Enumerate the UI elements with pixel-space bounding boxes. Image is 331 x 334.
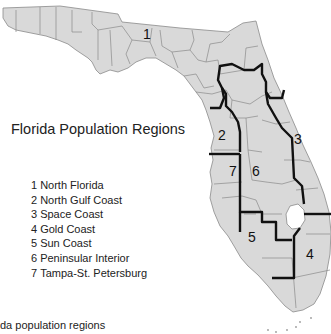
legend-label: North Florida — [40, 179, 104, 191]
map-caption: da population regions — [0, 319, 105, 331]
legend-number: 2 — [31, 194, 37, 206]
region-label-1: 1 — [143, 26, 151, 42]
legend-number: 7 — [31, 267, 37, 279]
region-label-4: 4 — [306, 246, 314, 262]
legend-number: 5 — [31, 237, 37, 249]
legend-item: 6Peninsular Interior — [31, 251, 147, 266]
legend-item: 7Tampa-St. Petersburg — [31, 266, 147, 281]
legend-label: Gold Coast — [40, 223, 95, 235]
legend-item: 3Space Coast — [31, 207, 147, 222]
legend-item: 1North Florida — [31, 178, 147, 193]
legend-label: North Gulf Coast — [40, 194, 122, 206]
region-label-7: 7 — [229, 163, 237, 179]
region-label-2: 2 — [218, 127, 226, 143]
legend-label: Sun Coast — [40, 237, 91, 249]
florida-map — [0, 0, 331, 334]
florida-keys — [267, 317, 312, 333]
legend-item: 4Gold Coast — [31, 222, 147, 237]
region-label-5: 5 — [248, 229, 256, 245]
map-legend: 1North Florida 2North Gulf Coast 3Space … — [31, 178, 147, 280]
region-label-6: 6 — [252, 163, 260, 179]
legend-label: Peninsular Interior — [40, 252, 129, 264]
legend-label: Space Coast — [40, 208, 103, 220]
legend-number: 1 — [31, 179, 37, 191]
legend-item: 5Sun Coast — [31, 236, 147, 251]
region-label-3: 3 — [294, 131, 302, 147]
lake-okeechobee — [286, 204, 305, 229]
map-title: Florida Population Regions — [11, 121, 185, 137]
legend-number: 4 — [31, 223, 37, 235]
legend-label: Tampa-St. Petersburg — [40, 267, 147, 279]
legend-number: 3 — [31, 208, 37, 220]
legend-item: 2North Gulf Coast — [31, 193, 147, 208]
legend-number: 6 — [31, 252, 37, 264]
